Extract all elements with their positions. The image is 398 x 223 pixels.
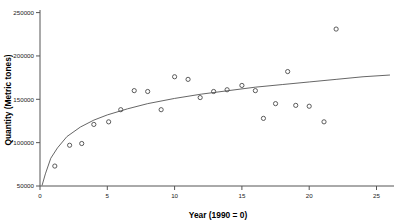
x-tick-label: 15: [238, 192, 245, 199]
data-point-marker: [253, 89, 257, 93]
data-points-group: [53, 27, 339, 168]
data-point-marker: [107, 120, 111, 124]
y-axis-title: Quantity (Metric tones): [3, 54, 13, 145]
data-point-marker: [146, 89, 150, 93]
data-point-marker: [132, 89, 136, 93]
y-tick-label: 250000: [13, 9, 34, 16]
scatter-plot-figure: 50000100000150000200000250000 0510152025…: [0, 0, 398, 223]
chart-canvas: 50000100000150000200000250000 0510152025…: [0, 0, 398, 223]
x-axis-title: Year (1990 = 0): [189, 210, 248, 220]
data-point-marker: [322, 120, 326, 124]
y-axis-ticks: 50000100000150000200000250000: [13, 9, 40, 189]
data-point-marker: [68, 143, 72, 147]
x-tick-label: 0: [38, 192, 42, 199]
y-tick-label: 50000: [17, 182, 35, 189]
data-point-marker: [286, 69, 290, 73]
axes-group: [40, 10, 394, 186]
data-point-marker: [159, 108, 163, 112]
data-point-marker: [294, 103, 298, 107]
data-point-marker: [240, 83, 244, 87]
y-tick-label: 200000: [13, 52, 34, 59]
y-tick-label: 150000: [13, 96, 34, 103]
data-point-marker: [173, 75, 177, 79]
data-point-marker: [334, 27, 338, 31]
data-point-marker: [53, 164, 57, 168]
data-point-marker: [198, 95, 202, 99]
x-axis-ticks: 0510152025: [38, 186, 380, 199]
data-point-marker: [80, 141, 84, 145]
x-tick-label: 25: [373, 192, 380, 199]
data-point-marker: [273, 102, 277, 106]
data-point-marker: [92, 122, 96, 126]
y-tick-label: 100000: [13, 139, 34, 146]
x-tick-label: 5: [106, 192, 110, 199]
data-point-marker: [186, 77, 190, 81]
x-tick-label: 20: [306, 192, 313, 199]
data-point-marker: [307, 104, 311, 108]
data-point-marker: [261, 116, 265, 120]
x-tick-label: 10: [171, 192, 178, 199]
